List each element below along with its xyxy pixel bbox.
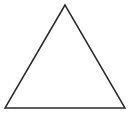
- diagram-canvas: [0, 0, 133, 113]
- triangle-diagram: [0, 0, 133, 113]
- triangle-shape: [5, 5, 125, 108]
